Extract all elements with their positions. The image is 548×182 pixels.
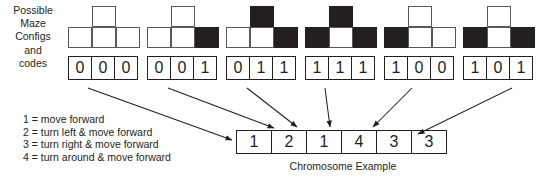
code-block: 0 0 0 (68, 56, 138, 80)
maze-cell-top (250, 6, 274, 27)
code-block: 1 0 1 (463, 56, 533, 80)
chromosome-gene: 4 (341, 130, 377, 154)
maze-cell-bottom-center (171, 27, 195, 48)
maze-cell-bottom-left (463, 27, 487, 48)
maze-cell-bottom-center (329, 27, 353, 48)
maze-cell-bottom-center (487, 27, 511, 48)
code-bit: 1 (305, 56, 329, 80)
maze-cell-bottom-left (305, 27, 329, 48)
legend-rule: 1 = move forward (23, 113, 171, 126)
legend-rule: 2 = turn left & move forward (23, 126, 171, 139)
maze-cell-bottom-right (511, 27, 535, 48)
arrow-code-to-gene (418, 88, 512, 134)
code-bit: 0 (170, 56, 194, 80)
movement-code-legend: 1 = move forward 2 = turn left & move fo… (23, 113, 171, 163)
code-bit: 0 (91, 56, 115, 80)
arrow-code-to-gene (247, 88, 297, 127)
code-bit: 1 (272, 56, 296, 80)
code-bit: 0 (226, 56, 250, 80)
code-bit: 1 (384, 56, 408, 80)
code-bit: 1 (509, 56, 533, 80)
maze-encoding-diagram: Possible Maze Configs and codes (0, 0, 548, 182)
maze-cell-bottom-center (250, 27, 274, 48)
arrow-code-to-gene (325, 88, 330, 127)
maze-cell-bottom-right (353, 27, 377, 48)
left-heading-label: Possible Maze Configs and codes (4, 4, 62, 70)
arrow-code-to-gene (373, 88, 412, 127)
code-block: 1 0 0 (384, 56, 454, 80)
maze-cell-bottom-left (384, 27, 408, 48)
maze-cell-bottom-right (432, 27, 456, 48)
maze-cell-top (171, 6, 195, 27)
legend-rule: 3 = turn right & move forward (23, 138, 171, 151)
code-bit: 1 (328, 56, 352, 80)
maze-cell-bottom-center (92, 27, 116, 48)
maze-cell-bottom-left (226, 27, 250, 48)
legend-rule: 4 = turn around & move forward (23, 151, 171, 164)
maze-cell-bottom-left (147, 27, 171, 48)
chromosome-gene: 3 (411, 130, 447, 154)
code-bit: 0 (486, 56, 510, 80)
maze-cell-bottom-center (408, 27, 432, 48)
code-bit: 0 (147, 56, 171, 80)
maze-cell-top (487, 6, 511, 27)
left-heading-line: codes (4, 57, 62, 70)
code-bit: 1 (463, 56, 487, 80)
code-bit: 0 (68, 56, 92, 80)
left-heading-line: Maze (4, 17, 62, 30)
arrow-code-to-gene (168, 88, 274, 128)
maze-cell-bottom-right (274, 27, 298, 48)
maze-cell-bottom-right (116, 27, 140, 48)
chromosome-gene: 2 (271, 130, 307, 154)
code-bit: 0 (430, 56, 454, 80)
maze-cell-top (329, 6, 353, 27)
code-block: 0 0 1 (147, 56, 217, 80)
code-bit: 1 (351, 56, 375, 80)
maze-cell-top (92, 6, 116, 27)
code-bit: 0 (407, 56, 431, 80)
chromosome-row: 1 2 1 4 3 3 (236, 130, 447, 154)
maze-cell-top (408, 6, 432, 27)
chromosome-gene: 3 (376, 130, 412, 154)
left-heading-line: and (4, 44, 62, 57)
code-block: 1 1 1 (305, 56, 375, 80)
chromosome-caption: Chromosome Example (236, 160, 450, 172)
code-bit: 1 (249, 56, 273, 80)
chromosome-gene: 1 (236, 130, 272, 154)
left-heading-line: Possible (4, 4, 62, 17)
code-bit: 1 (193, 56, 217, 80)
code-block: 0 1 1 (226, 56, 296, 80)
left-heading-line: Configs (4, 30, 62, 43)
maze-cell-bottom-right (195, 27, 219, 48)
maze-cell-bottom-left (68, 27, 92, 48)
code-bit: 0 (114, 56, 138, 80)
chromosome-gene: 1 (306, 130, 342, 154)
